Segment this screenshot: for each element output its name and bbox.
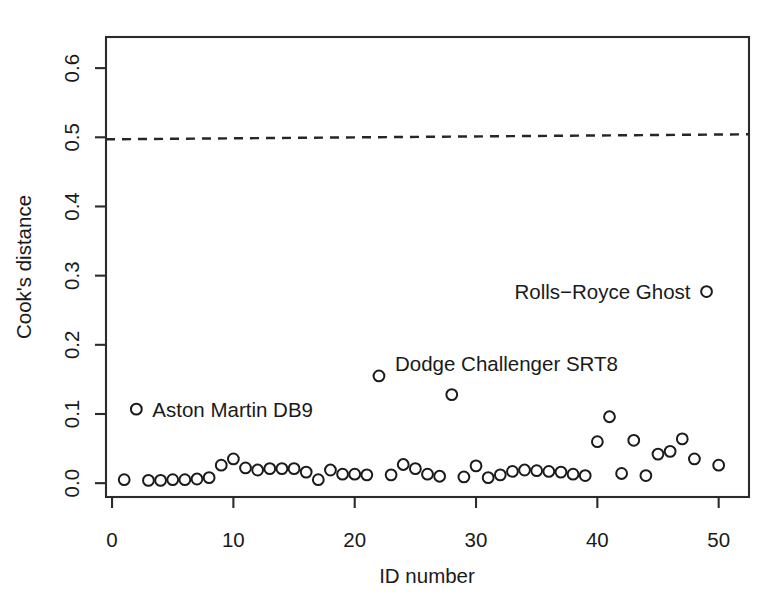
data-point xyxy=(386,469,397,480)
data-point xyxy=(374,371,385,382)
data-point xyxy=(543,466,554,477)
data-point xyxy=(361,469,372,480)
data-point xyxy=(216,460,227,471)
data-point xyxy=(713,460,724,471)
data-point xyxy=(398,459,409,470)
data-point xyxy=(556,467,567,478)
data-point xyxy=(653,449,664,460)
cooks-distance-figure: 0.00.10.20.30.40.50.6 01020304050 Aston … xyxy=(0,0,782,598)
data-point xyxy=(228,454,239,465)
data-point xyxy=(143,475,154,486)
data-point xyxy=(483,472,494,483)
x-tick-label-0: 0 xyxy=(106,528,117,551)
y-axis-tick-labels: 0.00.10.20.30.40.50.6 xyxy=(61,54,84,498)
data-point xyxy=(240,463,251,474)
data-point xyxy=(689,454,700,465)
data-point xyxy=(665,446,676,457)
data-point xyxy=(677,433,688,444)
data-point xyxy=(604,411,615,422)
y-axis-ticks xyxy=(95,68,106,483)
x-tick-label-2: 20 xyxy=(343,528,366,551)
data-point xyxy=(155,475,166,486)
data-point xyxy=(580,470,591,481)
data-point xyxy=(301,467,312,478)
data-point xyxy=(616,468,627,479)
data-point xyxy=(422,469,433,480)
x-axis-ticks xyxy=(112,497,719,508)
data-point xyxy=(701,286,712,297)
plot-frame xyxy=(106,37,749,497)
data-point xyxy=(131,404,142,415)
data-point xyxy=(277,463,288,474)
data-point xyxy=(459,472,470,483)
data-point xyxy=(592,436,603,447)
y-tick-label-4: 0.4 xyxy=(61,192,84,221)
x-axis-title: ID number xyxy=(379,564,475,587)
data-point xyxy=(204,472,215,483)
point-label-rolls-royce-ghost: Rolls−Royce Ghost xyxy=(514,280,690,303)
data-point xyxy=(568,469,579,480)
y-tick-label-1: 0.1 xyxy=(61,400,84,429)
data-point xyxy=(519,465,530,476)
x-tick-label-3: 30 xyxy=(465,528,488,551)
y-tick-label-3: 0.3 xyxy=(61,261,84,290)
cooks-threshold-line xyxy=(106,134,749,139)
data-point xyxy=(289,463,300,474)
data-point xyxy=(471,460,482,471)
data-point xyxy=(313,474,324,485)
data-point xyxy=(640,470,651,481)
data-point xyxy=(119,474,130,485)
data-point xyxy=(325,465,336,476)
data-point xyxy=(264,463,275,474)
x-tick-label-4: 40 xyxy=(586,528,609,551)
data-point xyxy=(446,389,457,400)
data-point xyxy=(167,474,178,485)
data-point xyxy=(337,469,348,480)
data-point xyxy=(628,435,639,446)
point-label-dodge-challenger-srt8: Dodge Challenger SRT8 xyxy=(395,352,618,375)
data-point xyxy=(349,469,360,480)
plot-canvas: 0.00.10.20.30.40.50.6 01020304050 Aston … xyxy=(0,0,782,598)
y-tick-label-0: 0.0 xyxy=(61,469,84,498)
data-point xyxy=(507,466,518,477)
y-tick-label-2: 0.2 xyxy=(61,331,84,360)
data-points xyxy=(119,286,724,486)
point-label-aston-martin-db9: Aston Martin DB9 xyxy=(152,398,313,421)
y-axis-title: Cook's distance xyxy=(12,195,35,339)
data-point xyxy=(495,469,506,480)
y-tick-label-5: 0.5 xyxy=(61,123,84,152)
x-axis-tick-labels: 01020304050 xyxy=(106,528,730,551)
data-point xyxy=(410,463,421,474)
data-point xyxy=(252,465,263,476)
data-point xyxy=(531,465,542,476)
data-point xyxy=(179,474,190,485)
data-point xyxy=(192,474,203,485)
x-tick-label-5: 50 xyxy=(707,528,730,551)
data-point xyxy=(434,471,445,482)
x-tick-label-1: 10 xyxy=(222,528,245,551)
y-tick-label-6: 0.6 xyxy=(61,54,84,83)
